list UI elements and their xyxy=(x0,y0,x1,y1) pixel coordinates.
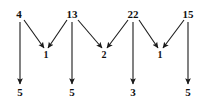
diagonal-arrow-5 xyxy=(163,20,184,48)
middle-node-label-0: 1 xyxy=(44,50,49,60)
bottom-node-label-3: 5 xyxy=(185,87,191,98)
top-node-label-0: 4 xyxy=(16,9,22,20)
arrow-diagram-svg xyxy=(0,0,201,102)
diagonal-arrow-2 xyxy=(78,20,102,48)
diagonal-arrow-0 xyxy=(24,20,44,48)
middle-node-label-1: 2 xyxy=(102,50,107,60)
bottom-node-label-0: 5 xyxy=(17,87,23,98)
top-node-label-1: 13 xyxy=(67,9,78,20)
diagonal-arrow-3 xyxy=(107,20,128,48)
bottom-node-label-2: 3 xyxy=(130,87,136,98)
diagram-canvas: 41322151215535 xyxy=(0,0,201,102)
middle-node-label-2: 1 xyxy=(158,50,163,60)
top-node-label-2: 22 xyxy=(128,9,139,20)
bottom-node-label-1: 5 xyxy=(69,87,75,98)
diagonal-edge-group xyxy=(24,20,184,48)
diagonal-arrow-1 xyxy=(48,20,67,48)
diagonal-arrow-4 xyxy=(139,20,158,48)
top-node-label-3: 15 xyxy=(183,9,194,20)
